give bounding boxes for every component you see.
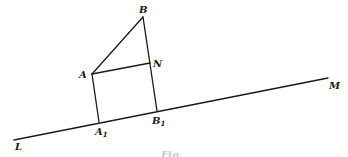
label-M: M	[328, 80, 341, 91]
diagram-segments	[14, 17, 328, 140]
label-N: N	[152, 58, 163, 69]
figure-caption: Fig.	[160, 149, 182, 157]
label-A: A	[78, 69, 87, 80]
label-A1: A1	[94, 126, 108, 139]
geometry-diagram: B A N A1 B1 L M Fig.	[0, 0, 348, 157]
label-B: B	[138, 4, 147, 15]
line-LM	[14, 78, 328, 140]
label-L: L	[14, 141, 22, 152]
segment-AA1	[92, 74, 99, 122]
diagram-labels: B A N A1 B1 L M Fig.	[14, 4, 341, 157]
label-B1: B1	[151, 115, 165, 128]
